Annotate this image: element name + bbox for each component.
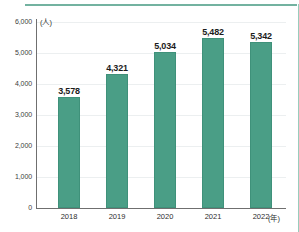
y-axis-line <box>36 19 37 209</box>
table-row[interactable] <box>58 97 80 208</box>
x-tick-label: 2022 <box>236 212 286 221</box>
bar-group: 4,321 <box>92 22 142 208</box>
bar-group: 5,482 <box>188 22 238 208</box>
bar-value-label: 5,342 <box>236 31 286 41</box>
y-axis-ticks: 6,000 5,000 4,000 3,000 2,000 1,000 0 <box>0 0 34 232</box>
table-row[interactable] <box>202 38 224 208</box>
bar-value-label: 3,578 <box>44 86 94 96</box>
bar-value-label: 5,034 <box>140 41 190 51</box>
bar-chart-figure: 6,000 5,000 4,000 3,000 2,000 1,000 0 (人… <box>0 0 299 232</box>
right-accent-rule <box>298 4 299 232</box>
bar-group: 5,034 <box>140 22 190 208</box>
y-tick-label: 0 <box>0 204 32 211</box>
y-tick-label: 1,000 <box>0 173 32 180</box>
table-row[interactable] <box>250 42 272 208</box>
y-tick-label: 2,000 <box>0 142 32 149</box>
x-tick-label: 2019 <box>92 212 142 221</box>
x-tick-label: 2018 <box>44 212 94 221</box>
bar-value-label: 4,321 <box>92 63 142 73</box>
y-tick-label: 5,000 <box>0 49 32 56</box>
table-row[interactable] <box>106 74 128 208</box>
y-tick-label: 6,000 <box>0 18 32 25</box>
bar-group: 5,342 <box>236 22 286 208</box>
bar-group: 3,578 <box>44 22 94 208</box>
y-tick-label: 4,000 <box>0 80 32 87</box>
x-tick-label: 2020 <box>140 212 190 221</box>
x-tick-label: 2021 <box>188 212 238 221</box>
bar-value-label: 5,482 <box>188 27 238 37</box>
top-accent-rule <box>25 4 297 6</box>
table-row[interactable] <box>154 52 176 208</box>
x-axis-line <box>36 208 286 209</box>
y-tick-label: 3,000 <box>0 111 32 118</box>
